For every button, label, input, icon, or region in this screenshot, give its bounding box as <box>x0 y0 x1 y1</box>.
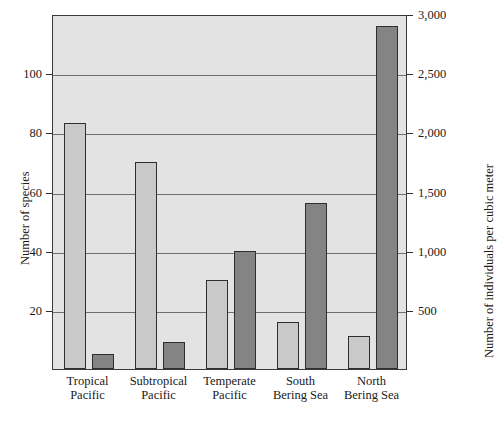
bar-individuals-4 <box>376 26 398 369</box>
bars-layer <box>53 16 406 369</box>
left-tick-label-100: 100 <box>0 68 42 81</box>
right-tick-label-2000: 2,000 <box>418 127 446 140</box>
bar-individuals-3 <box>305 203 327 369</box>
bar-individuals-0 <box>92 354 114 369</box>
right-tick-3000 <box>407 15 413 16</box>
category-label-line: Pacific <box>123 389 194 403</box>
left-tick-80 <box>46 133 52 134</box>
left-tick-20 <box>46 311 52 312</box>
left-tick-100 <box>46 74 52 75</box>
bar-species-3 <box>277 322 299 369</box>
category-label-line: Bering Sea <box>265 389 336 403</box>
category-label-line: Pacific <box>52 389 123 403</box>
left-tick-40 <box>46 252 52 253</box>
category-label-line: North <box>336 375 407 389</box>
right-tick-label-1500: 1,500 <box>418 187 446 200</box>
right-tick-label-3000: 3,000 <box>418 9 446 22</box>
bar-species-4 <box>348 336 370 369</box>
right-tick-1500 <box>407 193 413 194</box>
category-label-line: South <box>265 375 336 389</box>
category-label-line: Bering Sea <box>336 389 407 403</box>
category-label-line: Tropical <box>52 375 123 389</box>
category-label-1: SubtropicalPacific <box>123 375 194 402</box>
plot-area <box>52 15 407 370</box>
bar-individuals-1 <box>163 342 185 369</box>
bar-species-0 <box>64 123 86 369</box>
right-tick-2000 <box>407 133 413 134</box>
right-tick-label-500: 500 <box>418 305 437 318</box>
right-tick-label-2500: 2,500 <box>418 68 446 81</box>
right-tick-label-1000: 1,000 <box>418 246 446 259</box>
right-tick-500 <box>407 311 413 312</box>
category-label-line: Temperate <box>194 375 265 389</box>
left-tick-label-80: 80 <box>0 127 42 140</box>
right-tick-1000 <box>407 252 413 253</box>
bar-species-2 <box>206 280 228 369</box>
bar-species-1 <box>135 162 157 369</box>
category-label-0: TropicalPacific <box>52 375 123 402</box>
category-label-3: SouthBering Sea <box>265 375 336 402</box>
right-tick-2500 <box>407 74 413 75</box>
category-label-2: TemperatePacific <box>194 375 265 402</box>
right-axis-title: Number of individuals per cubic meter <box>482 164 497 358</box>
left-axis-title: Number of species <box>18 171 33 265</box>
left-tick-label-20: 20 <box>0 305 42 318</box>
left-tick-60 <box>46 193 52 194</box>
category-label-4: NorthBering Sea <box>336 375 407 402</box>
dual-axis-bar-chart: 20406080100 Number of species 5001,0001,… <box>0 0 499 427</box>
category-label-line: Subtropical <box>123 375 194 389</box>
bar-individuals-2 <box>234 251 256 369</box>
category-label-line: Pacific <box>194 389 265 403</box>
